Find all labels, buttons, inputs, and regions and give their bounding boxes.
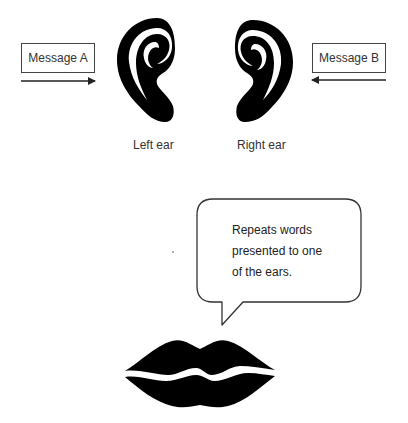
message-b-label: Message B [319,51,379,65]
right-ear-icon [235,20,293,122]
bubble-line-1: Repeats words [232,220,322,241]
bubble-line-3: of the ears. [232,262,322,283]
left-ear-label: Left ear [133,138,174,152]
right-ear-label: Right ear [237,138,286,152]
speech-bubble-text: Repeats words presented to one of the ea… [232,220,322,283]
message-a-box: Message A [21,43,95,73]
bubble-line-2: presented to one [232,241,322,262]
lips-icon [125,340,275,407]
speck-dot [172,251,174,253]
left-ear-icon [117,18,175,122]
message-b-box: Message B [312,43,386,73]
message-a-label: Message A [28,51,87,65]
